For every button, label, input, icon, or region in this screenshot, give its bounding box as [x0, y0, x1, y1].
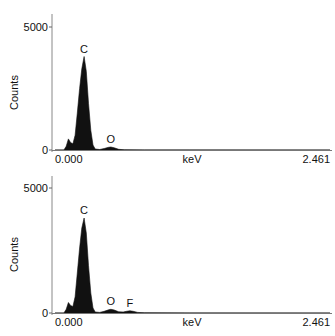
spectrum-chart-2: 500000.0002.461keVCountsCOF	[8, 176, 332, 328]
x-tick-label-min: 0.000	[55, 153, 83, 165]
x-tick-label-min: 0.000	[55, 316, 83, 328]
eds-spectra-figure: 500000.0002.461keVCountsCO500000.0002.46…	[0, 0, 335, 336]
x-axis-label: keV	[183, 153, 203, 165]
y-axis-label: Counts	[8, 237, 20, 272]
spectra-svg: 500000.0002.461keVCountsCO500000.0002.46…	[0, 0, 335, 336]
spectrum-area	[55, 57, 330, 151]
y-tick-label: 5000	[24, 21, 48, 33]
peak-label-f: F	[127, 297, 134, 309]
peak-label-o: O	[107, 295, 116, 307]
peak-label-o: O	[107, 133, 116, 145]
y-tick-label: 0	[42, 144, 48, 156]
y-axis-label: Counts	[8, 75, 20, 110]
y-tick-label: 5000	[24, 182, 48, 194]
peak-label-c: C	[80, 204, 88, 216]
y-tick-label: 0	[42, 307, 48, 319]
x-tick-label-max: 2.461	[302, 153, 330, 165]
spectrum-area	[55, 218, 330, 313]
spectrum-chart-1: 500000.0002.461keVCountsCO	[8, 14, 332, 165]
x-tick-label-max: 2.461	[302, 316, 330, 328]
x-axis-label: keV	[183, 316, 203, 328]
peak-label-c: C	[80, 43, 88, 55]
